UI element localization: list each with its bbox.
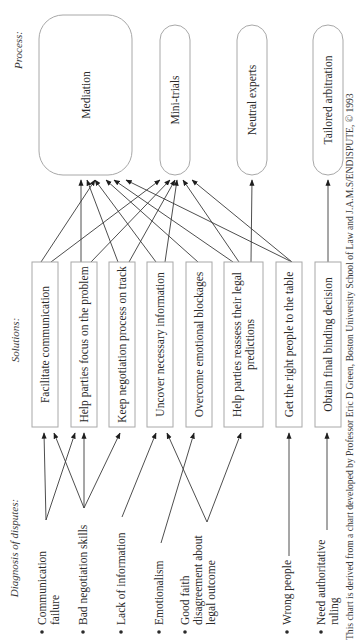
diagnosis-item-lack-of-information: Lack of information	[115, 532, 127, 634]
diagnosis-label: failure	[49, 595, 61, 625]
copyright-credit: This chart is derived from a chart devel…	[344, 93, 355, 640]
diagnosis-item-good-faith-disagreement: Good faithdisagreement aboutlegal outcom…	[179, 534, 218, 633]
solution-process-arrow	[251, 180, 252, 262]
diagnosis-solution-arrow	[207, 433, 241, 522]
diagnosis-label: Wrong people	[281, 560, 294, 625]
process-label: Mediation	[80, 71, 92, 119]
solution-label: Facilitate communication	[39, 286, 51, 403]
solution-process-arrow	[51, 180, 160, 262]
diagnosis-label: Communication	[36, 551, 48, 625]
diagnosis-label: disagreement about	[192, 534, 205, 625]
diagnosis-label: Bad negotiation skills	[77, 524, 90, 625]
process-label: Mini-trials	[169, 75, 181, 125]
solution-label: Help parties reassess their legal	[231, 272, 244, 417]
diagnosis-label: Lack of information	[115, 532, 127, 625]
credit-line: This chart is derived from a chart devel…	[344, 93, 355, 640]
bullet-icon	[285, 630, 289, 634]
process-node-mediation: Mediation	[39, 15, 132, 175]
solution-label: Help parties focus on the problem	[78, 266, 91, 422]
process-node-mini-trials: Mini-trials	[160, 25, 190, 175]
diagnosis-section-label: Diagnosis of disputes:	[8, 499, 20, 598]
diagnosis-item-wrong-people: Wrong people	[281, 560, 294, 634]
diagnosis-solution-arrow	[44, 433, 46, 520]
bullet-icon	[183, 630, 187, 634]
solution-node-keep-on-track: Keep negotiation process on track	[109, 262, 135, 427]
solution-column: Facilitate communicationHelp parties foc…	[32, 262, 341, 427]
process-node-neutral-experts: Neutral experts	[237, 25, 267, 175]
diagnosis-solution-arrow	[54, 433, 84, 508]
solution-label: predictions	[244, 318, 257, 370]
bullet-icon	[319, 630, 323, 634]
solution-node-final-decision: Obtain final binding decision	[315, 262, 341, 427]
solution-node-facilitate-communication: Facilitate communication	[32, 262, 58, 427]
diagnosis-label: legal outcome	[205, 560, 218, 625]
process-label: Neutral experts	[246, 64, 259, 135]
diagnosis-label: Emotionalism	[153, 560, 165, 625]
diagnosis-item-bad-negotiation-skills: Bad negotiation skills	[77, 524, 90, 634]
solution-label: Obtain final binding decision	[322, 277, 335, 412]
solution-process-arrow	[106, 180, 198, 262]
solution-node-uncover-information: Uncover necessary information	[147, 262, 173, 427]
diagnosis-label: ruling	[328, 597, 341, 625]
bullet-icon	[40, 630, 44, 634]
process-column: MediationMini-trialsNeutral expertsTailo…	[39, 15, 343, 175]
solution-node-reassess-predictions: Help parties reassess their legalpredict…	[224, 262, 263, 427]
diagnosis-solution-arrow	[167, 433, 207, 522]
process-section-label: Process:	[12, 31, 24, 70]
solution-process-arrow	[165, 180, 177, 262]
diagnosis-item-communication-failure: Communicationfailure	[36, 551, 61, 634]
diagnosis-item-emotionalism: Emotionalism	[153, 560, 165, 633]
diagnosis-solution-arrow	[161, 433, 194, 543]
solution-label: Overcome emotional blockages	[193, 271, 206, 417]
dispute-resolution-chart: Process:Solutions:Diagnosis of disputes:…	[0, 0, 363, 643]
solution-process-arrow	[183, 180, 239, 262]
bullet-icon	[81, 630, 85, 634]
solution-node-overcome-blockages: Overcome emotional blockages	[186, 262, 212, 427]
solution-to-process-arrows	[41, 180, 328, 262]
diagnosis-column: CommunicationfailureBad negotiation skil…	[36, 524, 341, 634]
diagnosis-solution-arrow	[122, 433, 156, 517]
solution-process-arrow	[126, 180, 292, 262]
process-label: Tailored arbitration	[322, 55, 334, 144]
process-node-tailored-arbitration: Tailored arbitration	[313, 25, 343, 175]
solution-label: Get the right people to the table	[283, 272, 296, 418]
solution-label: Uncover necessary information	[154, 272, 167, 417]
bullet-icon	[157, 630, 161, 634]
solutions-section-label: Solutions:	[9, 318, 21, 363]
bullet-icon	[119, 630, 123, 634]
solution-label: Keep negotiation process on track	[116, 266, 129, 423]
solution-process-arrow	[114, 180, 233, 262]
diagnosis-label: Need authoritative	[315, 540, 327, 625]
diagnosis-solution-arrow	[84, 433, 120, 508]
solution-node-focus-on-problem: Help parties focus on the problem	[71, 262, 97, 427]
diagnosis-label: Good faith	[179, 575, 191, 625]
solution-process-arrow	[192, 180, 292, 262]
diagnosis-solution-arrow	[46, 433, 75, 520]
diagnosis-item-need-authoritative-ruling: Need authoritativeruling	[315, 540, 341, 634]
solution-node-right-people: Get the right people to the table	[276, 262, 302, 427]
section-labels: Process:Solutions:Diagnosis of disputes:	[8, 31, 24, 598]
solution-process-arrow	[95, 180, 156, 262]
